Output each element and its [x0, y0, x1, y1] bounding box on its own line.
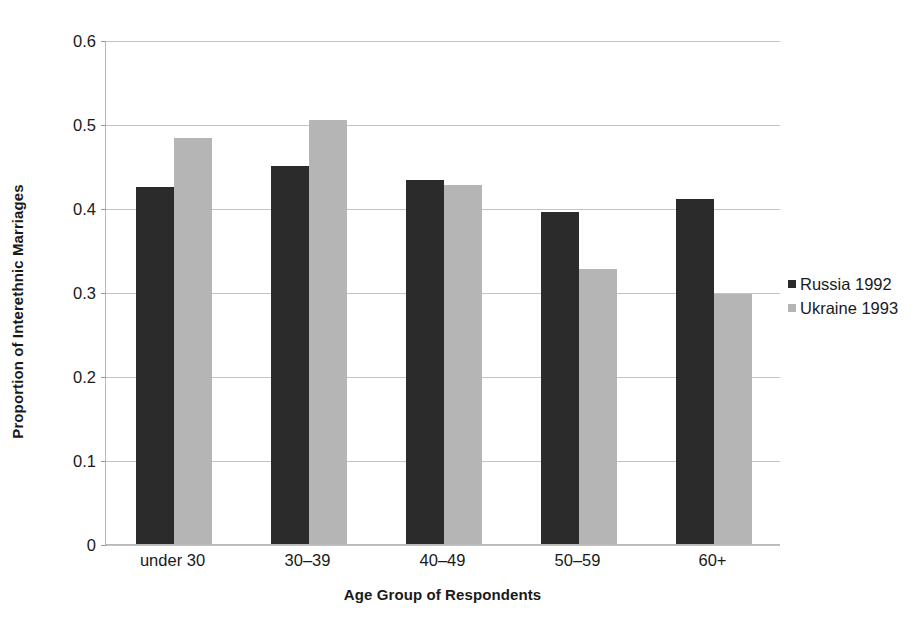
x-axis-tick-label: 40–49 [420, 551, 466, 570]
x-axis-tick-label: 30–39 [285, 551, 331, 570]
bars-layer [106, 41, 780, 545]
plot-area [105, 41, 780, 545]
bar-group [406, 41, 482, 545]
y-axis-tick-label: 0 [38, 536, 96, 555]
bar [714, 294, 752, 545]
y-axis-tick-label: 0.2 [38, 368, 96, 387]
bar [136, 187, 174, 545]
bar [676, 199, 714, 545]
y-axis-tick-label: 0.1 [38, 452, 96, 471]
chart-page: Proportion of Interethnic Marriages 00.1… [0, 0, 919, 623]
legend-label: Ukraine 1993 [800, 299, 898, 318]
bar [174, 138, 212, 545]
bar [406, 180, 444, 545]
legend-swatch-icon [788, 280, 796, 288]
x-axis-tick-label: 60+ [699, 551, 727, 570]
legend-item: Russia 1992 [788, 272, 916, 296]
bar [541, 212, 579, 545]
y-axis-tick-label: 0.3 [38, 284, 96, 303]
y-axis-tick-labels: 00.10.20.30.40.50.6 [38, 41, 96, 545]
x-axis-tick-label: under 30 [140, 551, 205, 570]
legend-label: Russia 1992 [800, 275, 892, 294]
bar [271, 166, 309, 545]
y-axis-tick-label: 0.5 [38, 116, 96, 135]
bar [309, 120, 347, 545]
x-axis-tick-label: 50–59 [555, 551, 601, 570]
y-axis-tick-mark [101, 545, 106, 546]
bar-group [541, 41, 617, 545]
legend-item: Ukraine 1993 [788, 296, 916, 320]
y-axis-title: Proportion of Interethnic Marriages [0, 0, 34, 623]
legend: Russia 1992Ukraine 1993 [788, 272, 916, 320]
x-axis-title: Age Group of Respondents [105, 586, 780, 603]
y-axis-tick-label: 0.6 [38, 32, 96, 51]
x-axis-tick-labels: under 3030–3940–4950–5960+ [105, 551, 780, 577]
bar-group [136, 41, 212, 545]
bar [444, 185, 482, 545]
x-axis-line [106, 544, 780, 545]
legend-swatch-icon [788, 304, 796, 312]
bar-group [676, 41, 752, 545]
bar [579, 269, 617, 545]
y-axis-tick-label: 0.4 [38, 200, 96, 219]
bar-group [271, 41, 347, 545]
gridline [106, 545, 780, 546]
